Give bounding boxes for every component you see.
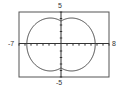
y-min-label: -5 [56, 79, 62, 86]
x-min-label: -7 [8, 40, 14, 47]
y-max-label: 5 [58, 2, 62, 9]
polar-plot [0, 0, 122, 87]
x-max-label: 8 [112, 40, 116, 47]
